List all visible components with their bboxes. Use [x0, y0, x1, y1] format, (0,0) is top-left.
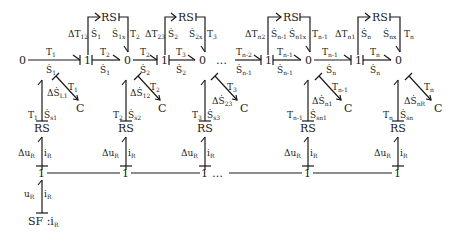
svg-text:Ṡ1x: Ṡ1x — [112, 28, 126, 40]
svg-text:Ṡ1: Ṡ1 — [46, 64, 56, 76]
svg-text:1: 1 — [304, 167, 311, 180]
svg-text:ΔT23: ΔT23 — [145, 29, 165, 40]
svg-text:C: C — [434, 102, 442, 115]
bond-5: Tn-2 Ṡn-1 — [235, 47, 261, 76]
svg-text:ΔuR: ΔuR — [284, 148, 301, 159]
bond-7: Tn-1 Ṡn — [314, 47, 351, 76]
svg-text:Ṡ2: Ṡ2 — [168, 28, 178, 40]
svg-text:T2: T2 — [150, 82, 160, 93]
svg-text:Ṡs1: Ṡs1 — [44, 109, 57, 121]
svg-text:T3: T3 — [192, 110, 202, 121]
svg-text:iR: iR — [207, 148, 215, 159]
ellipsis: … — [216, 54, 227, 67]
svg-text:ΔuR: ΔuR — [374, 148, 391, 159]
svg-text:Ṡn: Ṡn — [361, 28, 371, 40]
svg-text:ΔuR: ΔuR — [181, 148, 198, 159]
svg-text:Tn: Tn — [370, 47, 380, 58]
column-4: Tn-1 ΔṠn1 C Tn-1 Ṡsn1 RS ΔuR iR — [284, 73, 352, 170]
svg-text:T1: T1 — [46, 47, 56, 58]
svg-text:RS: RS — [390, 122, 406, 135]
svg-text:RS: RS — [34, 122, 50, 135]
flow-source: uR iR SF :iR — [24, 180, 59, 228]
svg-text:iR: iR — [400, 148, 408, 159]
svg-text:RS: RS — [118, 122, 134, 135]
svg-text:T3: T3 — [207, 29, 217, 40]
svg-text:iR: iR — [44, 189, 52, 200]
svg-text:Ṡ2: Ṡ2 — [176, 64, 186, 76]
svg-text:Ṡ1: Ṡ1 — [91, 28, 101, 40]
svg-text:Tn-1: Tn-1 — [332, 82, 348, 93]
svg-text:C: C — [158, 102, 166, 115]
bond-1: T1 Ṡ1 — [28, 47, 80, 76]
bond-6: Tn-1 Ṡn-1 — [273, 47, 301, 76]
svg-text:T2: T2 — [140, 47, 150, 58]
bottom-row: 1 1 1 … 1 1 — [38, 167, 401, 180]
bond-graph-diagram: 0 1 0 1 0 … 1 0 1 0 T1 Ṡ1 T2 Ṡ1 T2 Ṡ2 T3… — [0, 0, 462, 238]
svg-text:Ṡ2x: Ṡ2x — [189, 28, 203, 40]
bond-2: T2 Ṡ1 — [92, 47, 120, 76]
svg-text:Ṡs3: Ṡs3 — [207, 109, 220, 121]
svg-text:iR: iR — [44, 148, 52, 159]
rs-top-3: RS ΔTn2 Ṡn-1 Ṡn1x Tn-1 — [245, 11, 328, 55]
svg-text:Ṡsn: Ṡsn — [400, 109, 413, 121]
bond-8: Tn Ṡn — [363, 47, 391, 76]
svg-text:T2: T2 — [113, 110, 123, 121]
svg-text:ΔTn2: ΔTn2 — [245, 29, 265, 40]
svg-text:Ṡs2: Ṡs2 — [128, 109, 141, 121]
svg-text:ΔṠnR: ΔṠnR — [404, 95, 426, 107]
svg-text:ΔṠ12: ΔṠ12 — [130, 87, 150, 99]
svg-text:Ṡ1: Ṡ1 — [100, 64, 110, 76]
svg-text:ΔTn1: ΔTn1 — [335, 29, 355, 40]
svg-text:Ṡn-1: Ṡn-1 — [271, 28, 287, 40]
svg-text:RS: RS — [372, 11, 388, 24]
svg-text:T2: T2 — [100, 47, 110, 58]
svg-text:Tn: Tn — [424, 82, 434, 93]
svg-text:T1: T1 — [28, 110, 38, 121]
svg-text:iR: iR — [310, 148, 318, 159]
svg-text:ΔṠn1: ΔṠn1 — [312, 95, 332, 107]
svg-text:Ṡn: Ṡn — [326, 64, 336, 76]
column-1: T1 ΔṠL1 C T1 Ṡs1 RS ΔuR iR — [18, 73, 84, 170]
svg-text:1: 1 — [38, 167, 45, 180]
svg-text:RS: RS — [178, 11, 194, 24]
bond-3: T2 Ṡ2 — [133, 47, 157, 76]
junction-0-e: 0 — [395, 54, 402, 67]
svg-text:ΔṠL1: ΔṠL1 — [47, 87, 67, 99]
svg-text:C: C — [344, 102, 352, 115]
svg-text:Tn-1: Tn-1 — [322, 47, 338, 58]
svg-text:T1: T1 — [68, 82, 78, 93]
svg-text:Ṡ2: Ṡ2 — [140, 64, 150, 76]
junction-1-c: 1 — [265, 54, 272, 67]
svg-text:SF :iR: SF :iR — [28, 215, 59, 228]
svg-text:1: 1 — [201, 167, 208, 180]
svg-text:uR: uR — [24, 189, 35, 200]
svg-text:1: 1 — [394, 167, 401, 180]
svg-text:RS: RS — [300, 122, 316, 135]
svg-text:RS: RS — [197, 122, 213, 135]
junction-0-c: 0 — [199, 54, 206, 67]
svg-text:1: 1 — [122, 167, 129, 180]
svg-text:…: … — [212, 167, 223, 180]
column-2: T2 ΔṠ12 C T2 Ṡs2 RS ΔuR iR — [102, 73, 166, 170]
junction-1-d: 1 — [355, 54, 362, 67]
svg-text:Ṡn: Ṡn — [370, 64, 380, 76]
svg-text:ΔT12: ΔT12 — [68, 29, 88, 40]
svg-text:Tn: Tn — [404, 29, 414, 40]
svg-text:RS: RS — [101, 11, 117, 24]
svg-text:ΔṠ23: ΔṠ23 — [212, 95, 232, 107]
svg-text:iR: iR — [128, 148, 136, 159]
svg-text:T3: T3 — [176, 47, 186, 58]
svg-text:Tn-1: Tn-1 — [277, 47, 293, 58]
svg-text:RS: RS — [283, 11, 299, 24]
column-5: Tn ΔṠnR C Tn Ṡsn RS ΔuR iR — [374, 73, 442, 170]
svg-text:Ṡn-1: Ṡn-1 — [277, 64, 293, 76]
svg-text:C: C — [76, 102, 84, 115]
svg-text:Tn-1: Tn-1 — [312, 29, 328, 40]
svg-text:Ṡn1x: Ṡn1x — [289, 28, 307, 40]
bond-4: T3 Ṡ2 — [169, 47, 195, 76]
junction-1-a: 1 — [84, 54, 91, 67]
svg-text:T2: T2 — [130, 29, 140, 40]
svg-text:Tn-2: Tn-2 — [236, 47, 252, 58]
svg-text:Tn-1: Tn-1 — [287, 110, 303, 121]
svg-text:Tn: Tn — [383, 110, 393, 121]
